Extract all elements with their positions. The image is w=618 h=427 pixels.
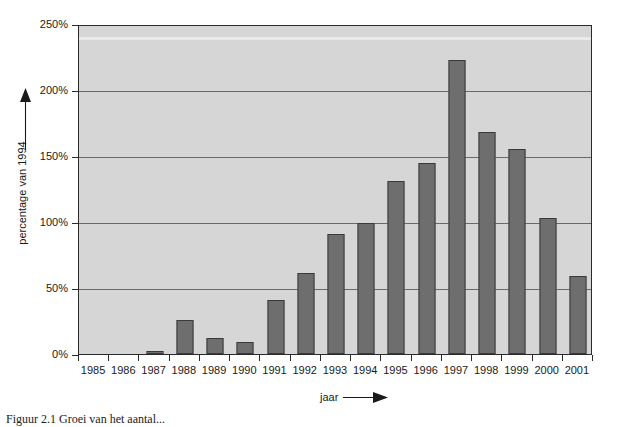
bar-1987[interactable] <box>146 351 163 354</box>
bar-1989[interactable] <box>207 338 224 354</box>
bar-1991[interactable] <box>267 300 284 354</box>
y-tick-label: 50% <box>0 282 68 294</box>
bar-slot <box>381 26 411 354</box>
bar-1992[interactable] <box>297 273 314 354</box>
plot-area <box>78 25 592 355</box>
y-tick-label: 250% <box>0 18 68 30</box>
bar-slot <box>79 26 109 354</box>
y-tick-label: 150% <box>0 150 68 162</box>
bar-1999[interactable] <box>509 149 526 354</box>
bar-slot <box>472 26 502 354</box>
bar-1996[interactable] <box>418 163 435 354</box>
x-tick-mark <box>471 355 472 361</box>
bar-slot <box>200 26 230 354</box>
x-tick-mark <box>320 355 321 361</box>
x-tick-mark <box>290 355 291 361</box>
y-tick-label: 200% <box>0 84 68 96</box>
bar-slot <box>533 26 563 354</box>
y-tick-label: 0% <box>0 348 68 360</box>
y-tick-label: 100% <box>0 216 68 228</box>
y-axis-up-arrow-icon <box>19 88 32 150</box>
bar-1994[interactable] <box>358 223 375 354</box>
bar-2000[interactable] <box>539 218 556 354</box>
x-tick-label: 2001 <box>557 364 597 376</box>
x-tick-mark <box>78 355 79 361</box>
bar-slot <box>109 26 139 354</box>
x-tick-mark <box>138 355 139 361</box>
bar-slot <box>563 26 592 354</box>
bar-2001[interactable] <box>569 276 586 354</box>
bar-1993[interactable] <box>327 234 344 354</box>
x-tick-mark <box>229 355 230 361</box>
x-tick-mark <box>169 355 170 361</box>
x-tick-mark <box>380 355 381 361</box>
x-tick-mark <box>411 355 412 361</box>
bar-slot <box>260 26 290 354</box>
x-axis-right-arrow-icon <box>343 392 389 403</box>
bar-1995[interactable] <box>388 181 405 354</box>
x-tick-mark <box>532 355 533 361</box>
bar-1998[interactable] <box>479 132 496 354</box>
x-tick-mark <box>108 355 109 361</box>
bar-series <box>79 26 591 354</box>
bar-1990[interactable] <box>237 342 254 354</box>
bar-slot <box>502 26 532 354</box>
x-tick-mark <box>199 355 200 361</box>
bar-1997[interactable] <box>448 60 465 354</box>
bar-slot <box>321 26 351 354</box>
x-tick-mark <box>259 355 260 361</box>
bar-slot <box>170 26 200 354</box>
x-axis-title: jaar <box>320 391 338 403</box>
x-tick-mark <box>501 355 502 361</box>
x-tick-mark <box>350 355 351 361</box>
bar-slot <box>442 26 472 354</box>
bar-slot <box>291 26 321 354</box>
bar-slot <box>351 26 381 354</box>
bar-slot <box>230 26 260 354</box>
x-tick-mark <box>562 355 563 361</box>
x-axis-title-group: jaar <box>320 391 389 403</box>
figure-caption: Figuur 2.1 Groei van het aantal... <box>6 412 165 427</box>
x-tick-mark <box>592 355 593 361</box>
bar-slot <box>139 26 169 354</box>
bar-1988[interactable] <box>176 320 193 354</box>
x-tick-mark <box>441 355 442 361</box>
bar-slot <box>412 26 442 354</box>
